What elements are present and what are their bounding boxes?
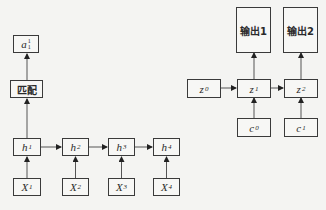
input-box-2: X2: [62, 178, 89, 196]
input-box-1: X1: [13, 178, 41, 196]
output-box-2: 输出2: [283, 7, 318, 53]
hidden-box-4: h4: [153, 138, 180, 156]
context-box-1: c1: [284, 118, 318, 137]
state-box-2: z2: [284, 79, 318, 98]
output-a-base: a: [21, 38, 27, 50]
context-box-0: c0: [237, 118, 271, 137]
input-box-3: X3: [108, 178, 135, 196]
output-a-box: a 1 1: [13, 35, 39, 53]
match-box: 匹配: [10, 80, 43, 98]
hidden-box-2: h2: [62, 138, 89, 156]
output-a-scripts: 1 1: [28, 38, 31, 50]
input-box-4: X4: [153, 178, 180, 196]
state-box-1: z1: [237, 79, 271, 98]
match-label: 匹配: [17, 82, 37, 97]
hidden-box-3: h3: [108, 138, 135, 156]
output-box-1: 输出1: [236, 7, 271, 53]
hidden-box-1: h1: [13, 138, 41, 156]
state-box-0: z0: [187, 79, 221, 98]
